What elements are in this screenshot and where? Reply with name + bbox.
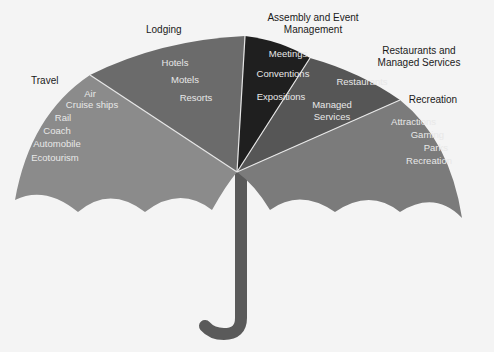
label-lodging: Lodging <box>146 24 182 35</box>
item: Air <box>84 88 96 99</box>
label-travel: Travel <box>31 75 58 86</box>
item: Restaurants <box>336 76 387 87</box>
item: Parks <box>424 142 449 153</box>
label-restaurants-line2: Managed Services <box>378 57 461 68</box>
item: Cruise ships <box>66 99 119 110</box>
item: Managed <box>312 99 352 110</box>
item: Automobile <box>33 138 81 149</box>
umbrella-diagram: Travel Lodging Assembly and Event Manage… <box>0 0 494 352</box>
item: Rail <box>55 112 71 123</box>
item: Attractions <box>391 116 436 127</box>
label-assembly-line1: Assembly and Event <box>267 12 358 23</box>
item: Hotels <box>162 57 189 68</box>
item: Gaming <box>411 129 444 140</box>
item: Services <box>314 111 351 122</box>
label-restaurants-line1: Restaurants and <box>382 45 455 56</box>
item: Resorts <box>180 92 213 103</box>
item: Recreation <box>406 155 452 166</box>
label-recreation: Recreation <box>409 94 457 105</box>
item: Meetings <box>269 48 308 59</box>
item: Conventions <box>257 68 310 79</box>
item: Coach <box>43 125 70 136</box>
label-assembly-line2: Management <box>284 24 343 35</box>
item: Expositions <box>257 91 306 102</box>
item: Ecotourism <box>31 152 79 163</box>
item: Motels <box>171 74 199 85</box>
